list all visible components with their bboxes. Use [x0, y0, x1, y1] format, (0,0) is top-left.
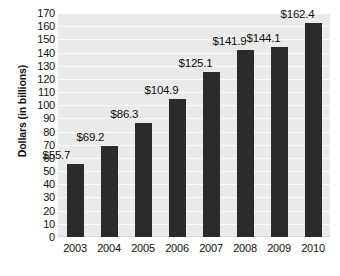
x-axis-tick-labels: 20032004200520062007200820092010	[58, 243, 330, 263]
y-axis-tick-label: 150	[20, 34, 55, 45]
x-axis-tick-label: 2007	[199, 243, 223, 254]
y-axis-tick-label: 20	[20, 205, 55, 216]
y-axis-tick-label: 120	[20, 73, 55, 84]
bar-chart: Dollars (in billions) 170160150140130120…	[0, 0, 340, 276]
x-axis-tick-label: 2005	[131, 243, 155, 254]
bar-value-label: $162.4	[281, 9, 315, 21]
y-axis-tick-label: 110	[20, 87, 55, 98]
bar-value-label: $69.2	[77, 132, 105, 144]
x-axis-tick-label: 2008	[233, 243, 257, 254]
x-axis-tick-label: 2010	[301, 243, 325, 254]
bar-value-label: $144.1	[247, 33, 281, 45]
y-axis-tick-label: 50	[20, 166, 55, 177]
bar-value-label: $125.1	[179, 58, 213, 70]
bar-value-label: $141.9	[213, 36, 247, 48]
bar-value-label: $86.3	[111, 109, 139, 121]
x-axis-tick-label: 2009	[267, 243, 291, 254]
y-axis-tick-label: 140	[20, 47, 55, 58]
y-axis-tick-label: 170	[20, 8, 55, 19]
y-axis-tick-label: 130	[20, 60, 55, 71]
y-axis-tick-label: 30	[20, 192, 55, 203]
y-axis-tick-label: 40	[20, 179, 55, 190]
x-axis-tick-label: 2003	[63, 243, 87, 254]
x-axis-tick-label: 2004	[97, 243, 121, 254]
y-axis-tick-label: 160	[20, 21, 55, 32]
y-axis-tick-labels: 1701601501401301201101009080706050403020…	[20, 13, 55, 237]
y-axis-tick-label: 90	[20, 113, 55, 124]
y-axis-tick-label: 10	[20, 218, 55, 229]
bar-value-label: $55.7	[43, 150, 71, 162]
y-axis-tick-label: 0	[20, 232, 55, 243]
bar-value-label: $104.9	[145, 85, 179, 97]
y-axis-tick-label: 80	[20, 126, 55, 137]
bar-value-labels: $55.7$69.2$86.3$104.9$125.1$141.9$144.1$…	[58, 13, 330, 237]
y-axis-tick-label: 100	[20, 100, 55, 111]
x-axis-tick-label: 2006	[165, 243, 189, 254]
